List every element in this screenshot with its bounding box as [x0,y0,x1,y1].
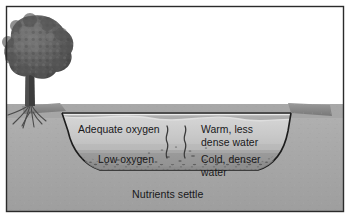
lake-stratification-figure: Adequate oxygen Warm, less dense water L… [0,0,350,220]
label-nutrients-settle: Nutrients settle [132,188,204,200]
layer-blend-band [58,144,298,153]
label-adequate-oxygen: Adequate oxygen [78,124,160,135]
label-low-oxygen: Low oxygen [98,154,154,165]
label-cold-line2: water [200,167,227,178]
diagram-canvas: Adequate oxygen Warm, less dense water L… [0,0,350,220]
label-warm-line1: Warm, less [201,124,253,135]
label-warm-line2: dense water [201,137,259,148]
label-cold-line1: Cold, denser [201,154,261,165]
